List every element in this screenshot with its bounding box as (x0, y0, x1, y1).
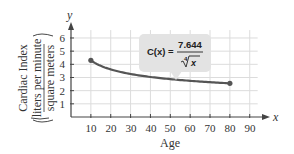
formula-lhs: C(x) = (147, 46, 174, 57)
y-axis-title-line2: liters per minute (30, 39, 44, 118)
x-axis-title: Age (160, 136, 180, 150)
curve-end-point (227, 81, 232, 86)
x-tick-label: 20 (106, 122, 118, 134)
cardiac-index-chart: 10 20 30 40 50 60 70 80 90 1 2 3 4 5 6 x… (0, 0, 294, 154)
x-tick-label: 60 (185, 122, 197, 134)
y-tick-label: 3 (60, 71, 66, 83)
x-tick-label: 30 (126, 122, 138, 134)
x-axis-variable: x (272, 110, 279, 124)
y-tick-label: 2 (60, 85, 66, 97)
x-tick-labels: 10 20 30 40 50 60 70 80 90 (86, 122, 257, 134)
x-tick-label: 80 (225, 122, 237, 134)
left-paren-icon (33, 120, 53, 122)
formula-numerator: 7.644 (178, 39, 202, 50)
y-axis-title-line1: Cardiac Index (16, 44, 30, 112)
y-tick-label: 4 (60, 58, 66, 70)
x-tick-label: 10 (86, 122, 98, 134)
formula-radicand: x (190, 58, 197, 68)
formula-callout: C(x) = 7.644 4 x (139, 34, 211, 80)
y-tick-labels: 1 2 3 4 5 6 (60, 32, 66, 110)
curve-start-point (88, 58, 93, 63)
y-tick-label: 6 (60, 32, 66, 44)
y-tick-label: 5 (60, 45, 66, 57)
y-axis-variable: y (66, 8, 73, 22)
y-tick-label: 1 (60, 98, 66, 110)
y-axis-arrow-icon (68, 22, 74, 30)
y-axis-title-line3: square meters (43, 45, 57, 112)
right-paren-icon (33, 34, 53, 36)
x-tick-label: 40 (146, 122, 158, 134)
x-tick-label: 90 (245, 122, 257, 134)
x-tick-label: 50 (165, 122, 177, 134)
y-axis-title: Cardiac Index liters per minute square m… (16, 34, 57, 122)
x-tick-label: 70 (205, 122, 217, 134)
x-axis-arrow-icon (262, 114, 270, 120)
